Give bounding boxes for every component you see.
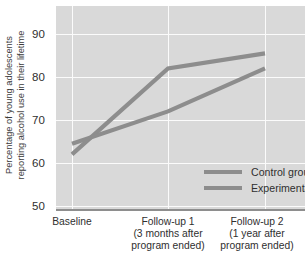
- x-tick-followup-2-line-2: (1 year after: [209, 228, 305, 240]
- chart-figure: Percentage of young adolescents reportin…: [0, 0, 305, 259]
- y-axis-title-text: Percentage of young adolescents reportin…: [4, 3, 27, 208]
- line-experimental-group: [72, 68, 265, 143]
- y-axis-title-line-1: Percentage of young adolescents: [4, 3, 16, 208]
- y-tick-label-80: 80: [32, 71, 54, 83]
- plot-area: Control group Experimental group: [56, 6, 305, 209]
- legend-item-experimental-group: Experimental group: [204, 180, 305, 196]
- x-tick-followup-1-line-2: (3 months after: [120, 228, 216, 240]
- legend-label-control-group: Control group: [251, 166, 305, 178]
- y-tick-label-60: 60: [32, 157, 54, 169]
- chart-legend: Control group Experimental group: [204, 164, 305, 196]
- legend-item-control-group: Control group: [204, 164, 305, 180]
- line-control-group: [72, 53, 265, 154]
- y-tick-label-70: 70: [32, 114, 54, 126]
- y-tick-label-90: 90: [32, 28, 54, 40]
- x-tick-followup-1-line-3: program ended): [120, 240, 216, 252]
- y-tick-label-50: 50: [32, 200, 54, 212]
- x-axis-line: [56, 209, 305, 211]
- legend-swatch-experimental-group: [204, 186, 242, 191]
- legend-swatch-control-group: [204, 170, 242, 175]
- x-tick-followup-2-line-1: Follow-up 2: [209, 216, 305, 228]
- x-tick-label-followup-1: Follow-up 1 (3 months after program ende…: [120, 216, 216, 253]
- legend-label-experimental-group: Experimental group: [251, 182, 305, 194]
- x-tick-baseline-line-1: Baseline: [24, 216, 120, 228]
- x-tick-label-followup-2: Follow-up 2 (1 year after program ended): [209, 216, 305, 253]
- y-axis-title-line-2: reporting alcohol use in their lifetime: [15, 3, 27, 208]
- x-tick-label-baseline: Baseline: [24, 216, 120, 228]
- x-tick-followup-2-line-3: program ended): [209, 240, 305, 252]
- y-axis-title: Percentage of young adolescents reportin…: [0, 0, 30, 210]
- x-tick-followup-1-line-1: Follow-up 1: [120, 216, 216, 228]
